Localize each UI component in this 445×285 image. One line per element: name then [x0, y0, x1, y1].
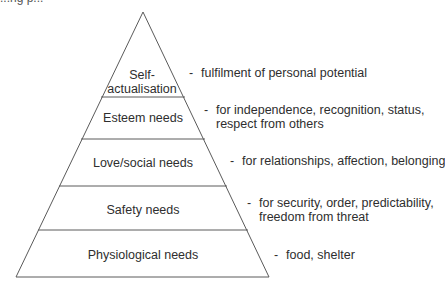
desc-text-line1: for independence, recognition, status, [216, 103, 424, 117]
bullet-dash: - [230, 154, 242, 168]
desc-physiological: -food, shelter [274, 248, 355, 262]
bullet-dash: - [247, 196, 259, 210]
level-self-actualisation: Self- actualisation [107, 68, 177, 96]
bullet-dash: - [204, 103, 216, 117]
desc-safety: -for security, order, predictability, fr… [247, 196, 434, 224]
desc-self-actualisation: -fulfilment of personal potential [189, 66, 367, 80]
desc-esteem: -for independence, recognition, status, … [204, 103, 424, 131]
level-physiological: Physiological needs [88, 248, 199, 262]
desc-text: food, shelter [286, 248, 355, 262]
level-safety: Safety needs [107, 203, 180, 217]
level-esteem: Esteem needs [103, 111, 183, 125]
level-label-line1: Self- [129, 68, 155, 82]
desc-text-line2: freedom from threat [247, 210, 434, 224]
desc-text: fulfilment of personal potential [201, 66, 367, 80]
level-love-social: Love/social needs [93, 156, 193, 170]
desc-text-line1: for security, order, predictability, [259, 196, 434, 210]
level-label-line2: actualisation [107, 82, 177, 96]
desc-text: for relationships, affection, belonging [242, 154, 445, 168]
desc-love-social: -for relationships, affection, belonging [230, 154, 445, 168]
bullet-dash: - [274, 248, 286, 262]
pyramid-outline [16, 12, 269, 277]
desc-text-line2: respect from others [204, 117, 424, 131]
caption-fragment: ...ng p... [0, 0, 43, 5]
bullet-dash: - [189, 66, 201, 80]
